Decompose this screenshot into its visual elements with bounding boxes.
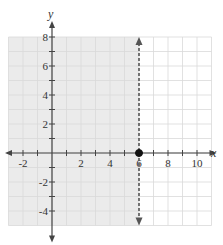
y-axis-up-arrow-icon xyxy=(49,21,55,28)
x-tick-label: 4 xyxy=(107,157,113,169)
y-axis-label: y xyxy=(47,7,54,21)
shaded-area xyxy=(9,37,140,226)
x-axis-label: x xyxy=(210,146,217,160)
y-axis-down-arrow-icon xyxy=(49,236,55,243)
x-tick-label: 8 xyxy=(165,157,171,169)
y-tick-label: 2 xyxy=(43,118,49,130)
x-tick-label: 2 xyxy=(78,157,84,169)
x-tick-label: -2 xyxy=(18,157,27,169)
inequality-graph: -22468108642-2-4 x y xyxy=(0,0,223,245)
x-tick-label: 10 xyxy=(192,157,204,169)
points xyxy=(136,150,143,157)
y-tick-label: -4 xyxy=(39,205,49,217)
y-tick-label: 6 xyxy=(43,60,49,72)
y-tick-label: 8 xyxy=(43,31,49,43)
point-marker xyxy=(136,150,143,157)
y-tick-label: 4 xyxy=(43,89,49,101)
y-tick-label: -2 xyxy=(39,176,48,188)
